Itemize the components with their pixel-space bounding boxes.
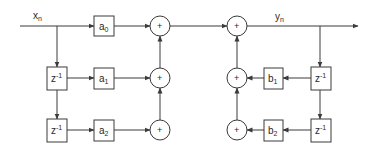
adder-fb-0: + [227,16,247,36]
coef-b1-block: b1 [264,68,283,89]
adder-ff-2: + [150,120,170,140]
coef-b2-block: b2 [264,120,283,141]
adder-ff-0: + [150,16,170,36]
delay-block-y2: z-1 [311,119,331,142]
adder-fb-1: + [227,68,247,88]
adder-ff-1: + [150,68,170,88]
output-label: yn [275,11,284,23]
svg-text:+: + [157,125,162,135]
iir-filter-diagram: xn a0 z-1 a1 z-1 a2 + + + [0,0,375,149]
coef-a0-block: a0 [94,16,114,36]
svg-text:+: + [234,73,239,83]
svg-text:+: + [234,125,239,135]
input-label: xn [33,10,42,22]
adder-fb-2: + [227,120,247,140]
coef-a1-block: a1 [94,68,114,89]
delay-block-x1: z-1 [47,67,67,90]
delay-block-x2: z-1 [47,119,67,142]
coef-a2-block: a2 [94,120,114,141]
svg-text:+: + [157,21,162,31]
svg-text:+: + [234,21,239,31]
delay-block-y1: z-1 [311,67,331,90]
svg-text:+: + [157,73,162,83]
